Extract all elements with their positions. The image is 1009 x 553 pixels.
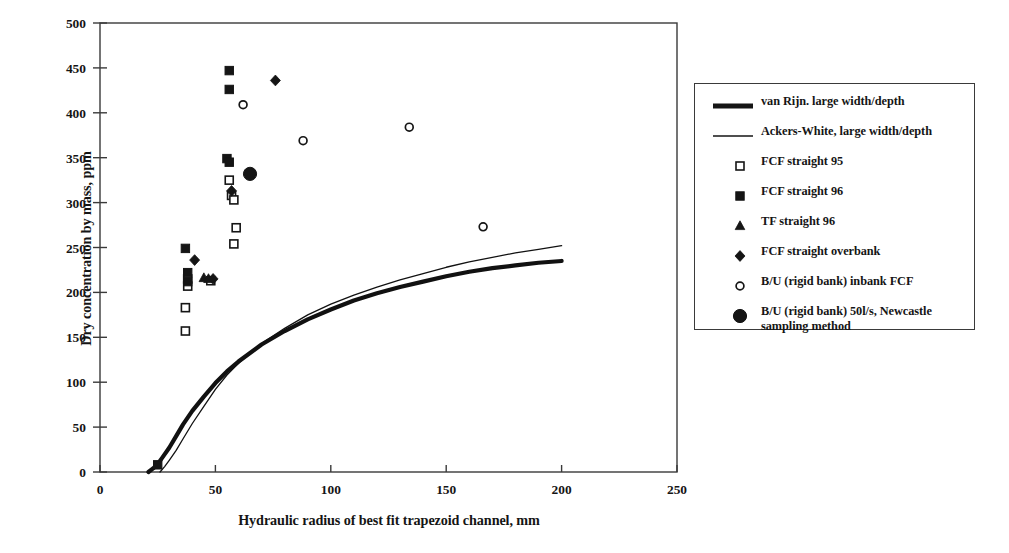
data-point-open-circle: [239, 101, 247, 109]
data-point-filled-circle: [733, 309, 746, 322]
legend-item[interactable]: TF straight 96: [705, 213, 967, 243]
data-point-filled-square: [181, 244, 189, 252]
axis-ticks: [93, 23, 677, 472]
data-point-open-circle: [299, 137, 307, 145]
data-point-open-square: [225, 176, 233, 184]
data-point-open-square: [232, 224, 240, 232]
y-tick-label: 500: [66, 16, 86, 31]
x-tick-label: 100: [321, 482, 341, 497]
data-point-filled-square: [736, 191, 744, 199]
legend-label: B/U (rigid bank) 50l/s, Newcastle sampli…: [761, 303, 967, 333]
legend-key: [705, 273, 761, 295]
legend-item[interactable]: FCF straight 96: [705, 183, 967, 213]
legend-item[interactable]: FCF straight 95: [705, 153, 967, 183]
data-point-open-square: [181, 327, 189, 335]
legend-marker-filled-circle: [710, 308, 756, 324]
legend-key: [705, 123, 761, 145]
data-point-filled-square: [184, 268, 192, 276]
x-tick-label: 50: [209, 482, 223, 497]
data-markers: [154, 66, 488, 469]
legend-label: B/U (rigid bank) inbank FCF: [761, 273, 913, 289]
legend-label: Ackers-White, large width/depth: [761, 123, 932, 139]
data-point-open-circle: [736, 282, 744, 290]
legend-marker-open-square: [710, 158, 756, 174]
data-point-filled-diamond: [190, 255, 200, 266]
data-point-filled-square: [184, 277, 192, 285]
data-point-filled-diamond: [270, 75, 280, 86]
legend-key: [705, 243, 761, 265]
data-point-open-square: [230, 196, 238, 204]
legend-marker-thick-line: [710, 98, 756, 114]
legend-item[interactable]: B/U (rigid bank) 50l/s, Newcastle sampli…: [705, 303, 967, 347]
data-point-filled-diamond: [735, 250, 745, 261]
data-point-filled-square: [225, 66, 233, 74]
x-axis-title: Hydraulic radius of best fit trapezoid c…: [100, 512, 678, 529]
x-tick-label: 150: [436, 482, 456, 497]
curve-thin-line: [160, 246, 562, 472]
legend-marker-thin-line: [710, 128, 756, 144]
legend-item[interactable]: Ackers-White, large width/depth: [705, 123, 967, 153]
legend-key: [705, 213, 761, 235]
legend-marker-filled-triangle: [710, 218, 756, 234]
legend-marker-open-circle: [710, 278, 756, 294]
legend-item[interactable]: FCF straight overbank: [705, 243, 967, 273]
data-point-open-square: [736, 162, 744, 170]
data-point-open-circle: [405, 123, 413, 131]
legend-marker-filled-diamond: [710, 248, 756, 264]
legend-key: [705, 303, 761, 325]
legend-label: FCF straight overbank: [761, 243, 880, 259]
legend-label: FCF straight 96: [761, 183, 843, 199]
y-axis-title: Dry concentration by mass, ppm: [78, 39, 95, 459]
legend-label: TF straight 96: [761, 213, 835, 229]
x-tick-label: 250: [667, 482, 687, 497]
chart-figure: 0501001502002500501001502002503003504004…: [0, 0, 1009, 553]
axis-tick-labels: 0501001502002500501001502002503003504004…: [66, 16, 687, 497]
legend-label: FCF straight 95: [761, 153, 843, 169]
legend-key: [705, 93, 761, 115]
data-point-filled-triangle: [735, 220, 745, 229]
legend-item[interactable]: van Rijn. large width/depth: [705, 93, 967, 123]
data-point-filled-square: [225, 85, 233, 93]
data-point-filled-square: [225, 158, 233, 166]
legend-item[interactable]: B/U (rigid bank) inbank FCF: [705, 273, 967, 303]
x-tick-label: 200: [552, 482, 572, 497]
legend-key: [705, 153, 761, 175]
legend: van Rijn. large width/depthAckers-White,…: [694, 83, 975, 330]
data-point-open-square: [181, 304, 189, 312]
y-tick-label: 0: [79, 465, 86, 480]
legend-items: van Rijn. large width/depthAckers-White,…: [705, 93, 967, 347]
legend-key: [705, 183, 761, 205]
data-point-filled-square: [154, 461, 162, 469]
x-tick-label: 0: [97, 482, 104, 497]
curve-thick-line: [148, 261, 561, 472]
data-point-open-square: [230, 240, 238, 248]
data-point-open-circle: [479, 223, 487, 231]
data-point-filled-circle: [243, 167, 256, 180]
legend-marker-filled-square: [710, 188, 756, 204]
legend-label: van Rijn. large width/depth: [761, 93, 905, 109]
